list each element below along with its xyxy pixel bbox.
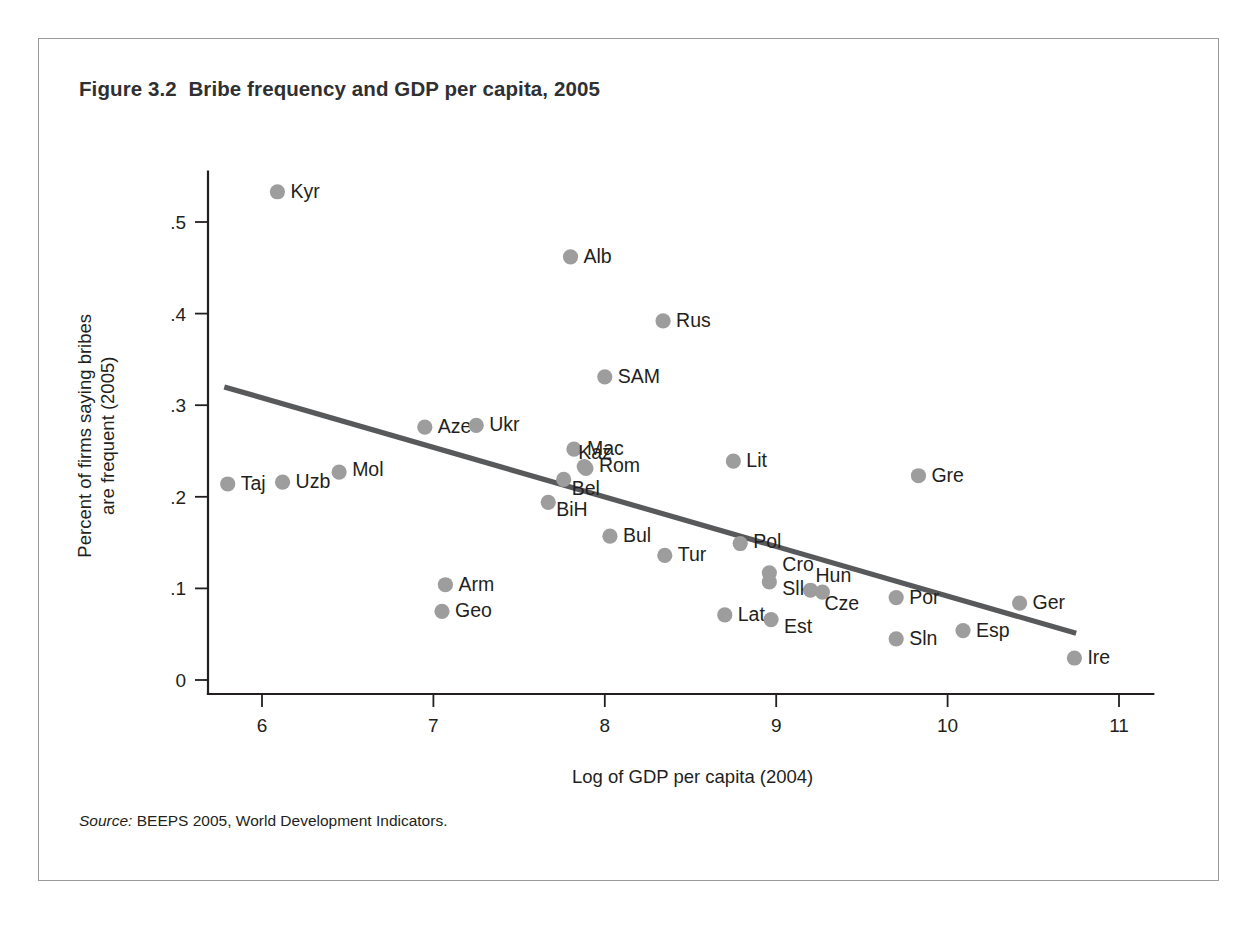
data-point-marker [270,184,285,199]
y-tick-label: .2 [170,487,186,508]
data-point-label: Taj [241,472,266,494]
data-point-label: Pol [753,530,781,552]
data-point-marker [1067,650,1082,665]
x-tick-label: 7 [428,715,439,736]
y-axis-title-line1: Percent of firms saying bribes [74,314,95,558]
data-point: Mol [332,458,384,480]
data-point: Ukr [469,413,520,435]
data-point-label: Geo [455,599,492,621]
data-point-marker [332,464,347,479]
source-label: Source: [79,812,132,829]
data-point: Slk [762,574,810,599]
data-point-marker [717,607,732,622]
scatter-chart: 0.1.2.3.4.567891011Log of GDP per capita… [39,39,1220,882]
trend-line [224,387,1076,633]
data-point-label: Ger [1033,591,1066,613]
data-point: Esp [955,619,1009,641]
data-point-marker [657,548,672,563]
data-point: Bul [602,524,651,546]
data-point-label: Uzb [296,470,331,492]
y-tick-label: 0 [175,670,186,691]
data-point-label: Esp [976,619,1010,641]
data-point-label: Cro [782,553,814,575]
x-axis-title: Log of GDP per capita (2004) [572,766,813,787]
data-point-label: Arm [458,573,494,595]
data-point-marker [762,574,777,589]
y-tick-label: .4 [170,304,186,325]
data-point-label: Sln [909,627,937,649]
x-tick-label: 11 [1109,715,1129,736]
data-point-marker [889,590,904,605]
data-point-label: Bul [623,524,651,546]
x-tick-label: 10 [937,715,958,736]
data-point-marker [434,604,449,619]
data-point-label: SAM [618,365,660,387]
data-point-marker [563,249,578,264]
data-point: Sln [889,627,938,649]
data-point-label: Ire [1087,646,1110,668]
data-point-label: Bel [572,477,600,499]
data-point-marker [541,495,556,510]
figure-frame: Figure 3.2 Bribe frequency and GDP per c… [38,38,1219,881]
data-point-marker [417,420,432,435]
data-point: Cze [815,584,859,614]
data-point-label: Kyr [290,180,320,202]
data-point-marker [556,472,571,487]
data-point: Aze [417,415,471,437]
data-point: Tur [657,543,707,565]
data-point: Ire [1067,646,1110,668]
data-point-label: Aze [438,415,472,437]
data-point-marker [275,475,290,490]
data-point: Rus [655,309,711,331]
data-point-marker [597,369,612,384]
data-point: Taj [220,472,266,494]
source-text: BEEPS 2005, World Development Indicators… [132,812,447,829]
y-tick-label: .5 [170,212,186,233]
data-point-label: Gre [931,464,964,486]
y-axis-title: Percent of firms saying bribesare freque… [74,314,118,558]
data-point-label: Tur [678,543,707,565]
data-point-marker [602,529,617,544]
data-point-marker [469,418,484,433]
data-point: Pol [733,530,782,552]
data-point: Est [763,612,812,637]
data-point-label: Est [784,615,813,637]
data-point-label: BiH [556,498,587,520]
x-tick-label: 9 [771,715,782,736]
data-point-marker [763,612,778,627]
y-tick-label: .1 [170,578,186,599]
data-point-marker [911,468,926,483]
data-point-label: Kaz [578,441,612,463]
data-point-marker [1012,595,1027,610]
data-point-marker [733,536,748,551]
data-point-label: Ukr [489,413,520,435]
data-point: Lat [717,603,765,625]
data-point-marker [955,623,970,638]
data-point-marker [726,453,741,468]
data-point: Lit [726,449,768,471]
data-point: Alb [563,245,612,267]
x-tick-label: 8 [600,715,611,736]
data-point-label: Mol [352,458,383,480]
x-tick-label: 6 [257,715,268,736]
data-point: Gre [911,464,964,486]
data-point-marker [438,577,453,592]
data-point: SAM [597,365,660,387]
data-point: Geo [434,599,492,621]
data-point-label: Lat [738,603,766,625]
data-point-marker [655,313,670,328]
data-point: Arm [438,573,494,595]
data-point: Kyr [270,180,320,202]
data-point-label: Rus [676,309,711,331]
source-note: Source: BEEPS 2005, World Development In… [79,812,447,830]
data-point: Ger [1012,591,1066,613]
data-point: Bel [556,472,600,500]
data-point-marker [220,476,235,491]
data-point-marker [889,631,904,646]
data-point-label: Por [909,586,940,608]
y-tick-label: .3 [170,395,186,416]
data-point-label: Lit [746,449,767,471]
data-point-label: Alb [584,245,612,267]
data-point-label: Hun [815,564,851,586]
data-point: Por [889,586,940,608]
